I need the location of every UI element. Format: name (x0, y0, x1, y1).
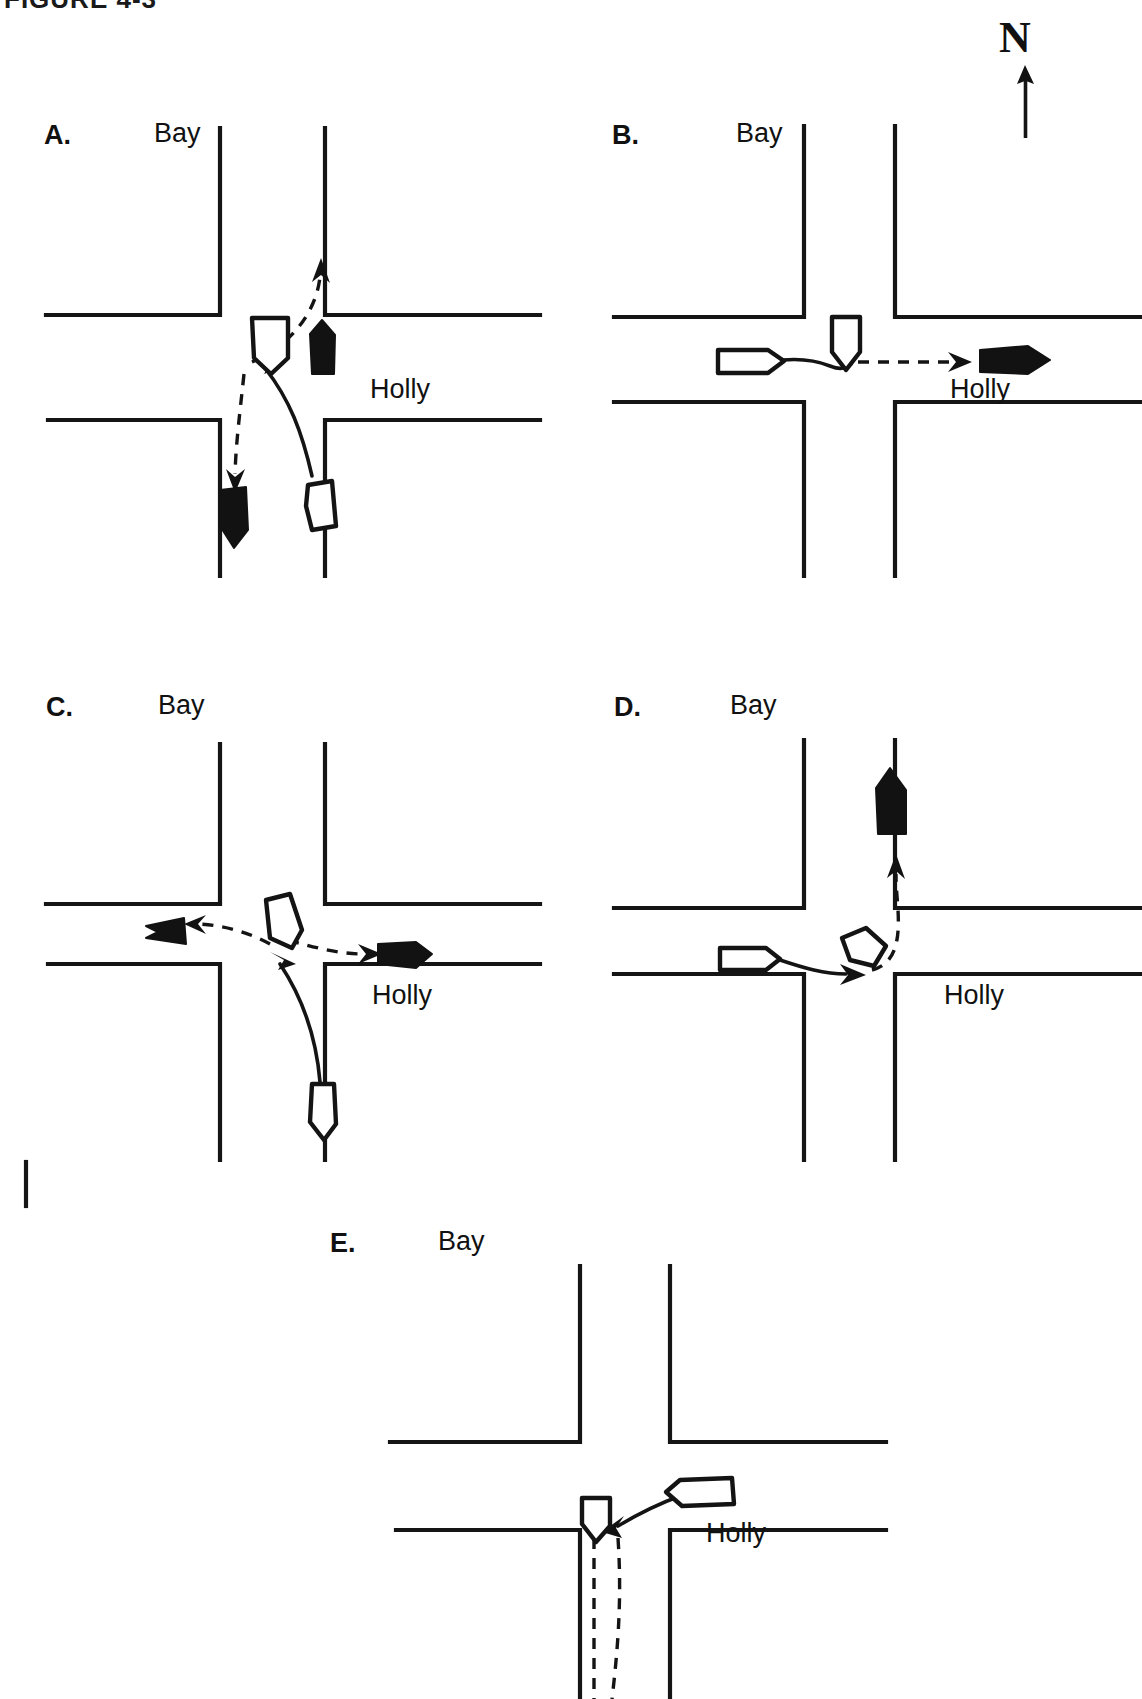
street-label-holly-b: Holly (950, 376, 1010, 403)
post-impact-paths-a (226, 258, 330, 493)
street-label-bay-d: Bay (730, 692, 777, 719)
panel-letter-a: A. (44, 122, 71, 149)
road-lines-a (46, 128, 540, 576)
vehicle-outline-c-turning (266, 894, 302, 948)
panel-letter-e: E. (330, 1230, 356, 1257)
street-label-holly-e: Holly (706, 1520, 766, 1547)
street-label-holly-d: Holly (944, 982, 1004, 1009)
collision-diagram-e: E. Bay Holly (326, 1208, 886, 1699)
road-lines-b (614, 126, 1142, 576)
panel-letter-d: D. (614, 694, 641, 721)
pre-impact-path-a (255, 357, 312, 476)
vehicle-outline-a-1 (252, 318, 288, 374)
street-label-holly-c: Holly (372, 982, 432, 1009)
intersection-sketch-d (608, 682, 1142, 1162)
vehicle-solid-c-west (146, 918, 186, 944)
vehicle-solid-a-north (310, 320, 335, 374)
vehicle-outline-a-2 (306, 481, 336, 530)
intersection-sketch-e (326, 1208, 886, 1699)
vehicle-outline-b-southbound (832, 317, 860, 370)
street-label-bay-a: Bay (154, 120, 201, 147)
vehicle-solid-a-south (220, 487, 248, 548)
road-lines-e (390, 1266, 886, 1699)
collision-diagram-a: A. Bay Holly (40, 112, 540, 592)
street-label-bay-c: Bay (158, 692, 205, 719)
vehicle-solid-b (980, 346, 1050, 374)
intersection-sketch-a (40, 112, 540, 592)
compass-north-label: N (999, 16, 1031, 60)
intersection-sketch-c (40, 682, 540, 1162)
post-impact-path-b (858, 352, 972, 372)
vehicle-outline-d-eastbound (720, 948, 780, 970)
panel-letter-b: B. (612, 122, 639, 149)
street-label-holly-a: Holly (370, 376, 430, 403)
vehicle-outline-e-southbound (582, 1498, 610, 1542)
road-lines-c (46, 744, 540, 1160)
vehicle-outline-e-westbound (666, 1478, 734, 1506)
street-label-bay-b: Bay (736, 120, 783, 147)
panel-letter-c: C. (46, 694, 73, 721)
street-label-bay-e: Bay (438, 1228, 485, 1255)
figure-caption: FIGURE 4-3 (4, 0, 157, 15)
vehicle-outline-b-eastbound (718, 350, 784, 373)
pre-impact-path-c (270, 952, 320, 1082)
post-impact-paths-e (594, 1538, 620, 1699)
vehicle-solid-d-north (876, 768, 906, 834)
vehicle-outline-d-struck (842, 928, 886, 966)
intersection-sketch-b (608, 112, 1142, 592)
vehicle-outline-c-approach (310, 1084, 336, 1140)
collision-diagram-d: D. Bay Holly (608, 682, 1142, 1162)
collision-diagram-c: C. Bay Holly (40, 682, 540, 1162)
figure-page: FIGURE 4-3 N A. Bay Holly (0, 0, 1142, 1699)
collision-diagram-b: B. Bay Holly (608, 112, 1142, 592)
